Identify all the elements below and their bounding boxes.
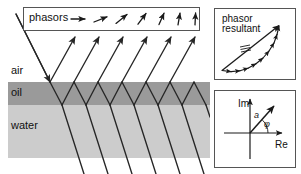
layer-label-air: air [11,64,23,76]
phasor-resultant-title: phasor resultant [222,14,260,34]
layer-label-oil: oil [11,86,22,98]
phasor-resultant-title-line2: resultant [222,24,260,34]
imaginary-axis-label: Im [238,98,249,109]
real-axis-label: Re [275,139,288,150]
magnitude-label: a [254,110,259,120]
layer-label-water: water [11,119,38,131]
figure-root: air oil water phasors phasor resultant I… [0,0,301,174]
phasors-legend-label: phasors [29,11,68,23]
layer-water [8,105,210,158]
argand-panel-border [215,91,296,168]
chain-arrow-2 [231,71,240,72]
phase-angle-label: φ [264,119,270,129]
argand-panel [215,91,296,168]
phasor-arrow-7 [195,13,196,25]
